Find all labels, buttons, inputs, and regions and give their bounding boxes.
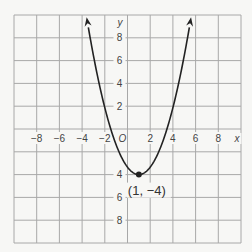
vertex-label: (1, −4) bbox=[128, 183, 166, 198]
x-tick-label: 4 bbox=[170, 133, 176, 144]
x-tick-label: 2 bbox=[147, 133, 153, 144]
arrow-up-left-icon bbox=[85, 17, 92, 26]
y-tick-label: 6 bbox=[117, 192, 123, 203]
x-axis-label: x bbox=[233, 133, 240, 144]
parabola-graph: −8−6−4−224688642468 x y O (1, −4) bbox=[0, 0, 252, 252]
vertex-point bbox=[136, 172, 142, 178]
origin-label: O bbox=[119, 133, 127, 144]
parabola-curve bbox=[88, 27, 189, 174]
grid bbox=[14, 15, 241, 243]
y-tick-label: 4 bbox=[117, 169, 123, 180]
y-tick-label: 2 bbox=[117, 101, 123, 112]
y-axis-label: y bbox=[117, 17, 124, 28]
x-tick-label: −2 bbox=[99, 133, 111, 144]
x-tick-label: −8 bbox=[31, 133, 43, 144]
y-tick-label: 4 bbox=[117, 78, 123, 89]
x-tick-label: −6 bbox=[54, 133, 66, 144]
arrow-up-right-icon bbox=[186, 17, 193, 26]
x-tick-label: −4 bbox=[76, 133, 88, 144]
x-tick-label: 8 bbox=[216, 133, 222, 144]
y-tick-label: 8 bbox=[117, 215, 123, 226]
y-tick-label: 8 bbox=[117, 32, 123, 43]
x-tick-label: 6 bbox=[193, 133, 199, 144]
y-tick-label: 6 bbox=[117, 55, 123, 66]
